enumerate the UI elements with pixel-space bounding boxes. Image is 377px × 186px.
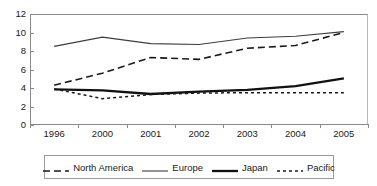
y-axis-tick-label: 0 [4,120,26,130]
y-axis-tick-label: 8 [4,46,26,56]
line-chart-figure: 024681012 1996200020012002200320042005 N… [0,0,377,186]
x-axis-tick-label: 2000 [78,128,126,140]
y-axis-tick-label: 4 [4,83,26,93]
legend-entry-label: Europe [172,162,203,173]
legend-line-swatch [212,162,238,172]
legend-entry-label: North America [73,162,133,173]
y-axis-tick-label: 6 [4,65,26,75]
x-axis-tick-label: 2001 [127,128,175,140]
legend-entry-north-america[interactable]: North America [43,162,133,173]
legend-line-swatch [277,162,303,172]
legend-entry-europe[interactable]: Europe [142,162,203,173]
y-axis-tick-label: 10 [4,28,26,38]
legend-line-swatch [142,162,168,172]
legend-entry-label: Japan [242,162,268,173]
x-axis-tick-label: 2002 [175,128,223,140]
y-axis-tick-label: 2 [4,102,26,112]
legend-line-swatch [43,162,69,172]
x-axis-tickmark [368,124,369,128]
x-axis-tick-label: 2005 [320,128,368,140]
legend-entry-label: Pacific [307,162,335,173]
y-axis-labels: 024681012 [0,0,26,186]
data-series-lines [30,14,368,125]
x-axis-tick-label: 2003 [223,128,271,140]
x-axis-tick-label: 2004 [271,128,319,140]
series-line-japan [54,78,344,94]
legend-entry-pacific[interactable]: Pacific [277,162,335,173]
y-axis-tick-label: 12 [4,9,26,19]
series-line-europe [54,32,344,47]
x-axis-tick-label: 1996 [30,128,78,140]
chart-legend: North AmericaEuropeJapanPacific [44,155,334,179]
series-line-north-america [54,33,344,86]
legend-entry-japan[interactable]: Japan [212,162,268,173]
x-axis-labels: 1996200020012002200320042005 [30,128,368,142]
